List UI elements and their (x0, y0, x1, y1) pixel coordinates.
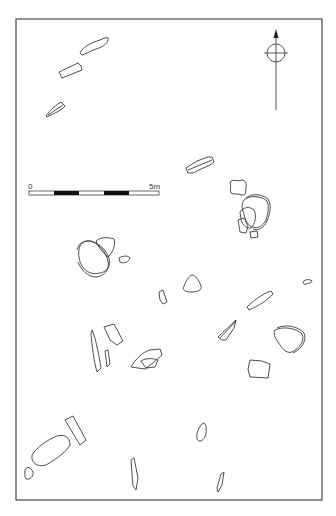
stone-5 (230, 180, 246, 195)
stone-18 (197, 423, 206, 441)
stone-12 (91, 324, 123, 372)
stone-2 (59, 63, 82, 78)
stone-7 (77, 238, 130, 277)
stone-1 (80, 38, 108, 55)
stone-16 (248, 360, 270, 378)
site-plan: 0 5m (0, 0, 336, 516)
scale-bar: 0 5m (28, 182, 160, 195)
stones (25, 38, 312, 492)
stone-13 (131, 349, 162, 369)
stone-10 (247, 291, 273, 310)
scale-start-label: 0 (28, 182, 33, 191)
north-arrow-icon (264, 29, 288, 110)
stone-19 (131, 458, 224, 492)
stone-14 (218, 320, 236, 340)
stone-9 (159, 290, 167, 304)
scale-end-label: 5m (149, 182, 160, 191)
stone-17 (25, 416, 86, 479)
stone-8 (183, 275, 201, 292)
stone-3 (46, 102, 65, 117)
stone-15 (274, 326, 305, 353)
stone-4 (186, 157, 214, 173)
stone-6 (238, 195, 270, 238)
stone-11 (303, 280, 312, 285)
